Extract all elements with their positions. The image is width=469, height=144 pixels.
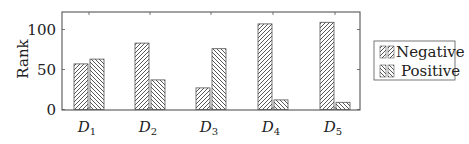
x-tick-label: D1 [77, 118, 96, 137]
legend-label-positive: Positive [401, 62, 460, 80]
bar-negative-d4 [258, 24, 272, 110]
y-axis-title: Rank [14, 38, 32, 78]
bar-positive-d4 [274, 100, 288, 110]
legend-label-negative: Negative [396, 43, 465, 61]
bar-positive-d5 [336, 102, 350, 109]
bar-chart: 050100 D1D2D3D4D5 Rank NegativePositive [0, 0, 469, 144]
legend-swatch-positive-2 [388, 65, 394, 77]
bar-positive-d2 [151, 80, 165, 110]
x-tick-label: D2 [138, 118, 157, 137]
bar-positive-d1 [90, 59, 104, 109]
y-tick-label: 50 [37, 61, 56, 79]
y-tick-label: 100 [27, 21, 56, 39]
legend: NegativePositive [374, 41, 465, 80]
bar-negative-d3 [196, 88, 210, 110]
x-tick-label: D3 [199, 118, 218, 137]
x-tick-label: D5 [323, 118, 342, 137]
x-axis: D1D2D3D4D5 [77, 12, 342, 137]
bars-group [74, 22, 350, 109]
plot-border [62, 12, 360, 110]
bar-positive-d3 [212, 49, 226, 110]
y-tick-label: 0 [46, 101, 56, 119]
legend-swatch-positive [380, 65, 386, 77]
x-tick-label: D4 [261, 118, 280, 137]
legend-swatch-negative-2 [388, 46, 394, 58]
plot-area [62, 12, 360, 110]
bar-negative-d2 [135, 43, 149, 109]
bar-negative-d1 [74, 64, 88, 110]
bar-negative-d5 [320, 22, 334, 109]
legend-swatch-negative [380, 46, 386, 58]
